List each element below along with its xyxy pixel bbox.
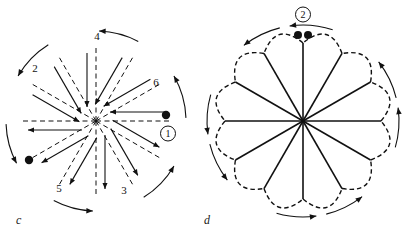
spoke-dashed-7 xyxy=(32,121,96,158)
panel-c-start-dot-right xyxy=(162,111,170,119)
petal-arc-4 xyxy=(235,53,264,82)
panel-c-number-label-4: 4 xyxy=(94,30,100,42)
panel-label-c: c xyxy=(16,213,21,228)
petal-arc-0 xyxy=(371,82,390,121)
petal-arc-5 xyxy=(216,82,235,121)
arc-arrow-head-1 xyxy=(18,69,24,76)
panel-c-circled-label-1: 1 xyxy=(166,128,171,139)
rim-arc-arrow-head-7 xyxy=(379,62,385,69)
spoke-solid-11 xyxy=(303,121,371,160)
panel-c-number-label-2: 2 xyxy=(32,62,38,74)
panel-c-diagram: 246351 xyxy=(6,29,186,214)
spoke-dashed-1 xyxy=(96,84,160,121)
spoke-dashed-4 xyxy=(59,57,96,121)
rim-arc-arrow-head-1 xyxy=(244,39,251,45)
rim-arc-arrow-head-4 xyxy=(310,214,317,219)
spoke-solid-5 xyxy=(235,82,303,121)
panel-label-d: d xyxy=(204,213,210,228)
spoke-solid-10 xyxy=(303,121,342,189)
rim-arc-arrow-head-0 xyxy=(290,22,297,27)
panel-d-pair-dot-left xyxy=(294,31,302,39)
panel-c-number-label-6: 6 xyxy=(153,76,159,88)
petal-arc-1 xyxy=(342,53,371,82)
spoke-solid-8 xyxy=(264,121,303,189)
panel-d-circled-label-2: 2 xyxy=(301,9,306,20)
petal-arc-10 xyxy=(342,160,371,189)
petal-arc-11 xyxy=(371,121,390,160)
spoke-arrow-shaft-1 xyxy=(104,79,151,106)
spoke-arrow-head-9 xyxy=(102,183,107,189)
spoke-arrow-head-0 xyxy=(110,109,116,114)
arc-arrow-head-0 xyxy=(99,29,106,34)
spoke-arrow-head-6 xyxy=(28,127,34,132)
spoke-solid-4 xyxy=(264,53,303,121)
rim-arc-arrow-head-5 xyxy=(355,197,362,203)
petal-arc-9 xyxy=(303,189,342,208)
spoke-arrow-head-3 xyxy=(84,101,89,107)
panel-c-number-label-3: 3 xyxy=(121,184,127,196)
rim-arc-arrow-head-2 xyxy=(204,128,209,135)
rim-arc-arrow-head-3 xyxy=(221,173,227,180)
spoke-dashed-8 xyxy=(59,121,96,185)
petal-arc-7 xyxy=(235,160,264,189)
panel-d-pair-dot-right xyxy=(304,31,312,39)
figure-svg: 246351 2 xyxy=(0,0,415,237)
spoke-dashed-10 xyxy=(96,121,133,185)
arc-arrow-head-3 xyxy=(86,208,93,213)
panel-d-diagram: 2 xyxy=(204,7,401,220)
spoke-solid-2 xyxy=(303,53,342,121)
spoke-dashed-11 xyxy=(96,121,160,158)
figure-canvas: 246351 2 xyxy=(0,0,415,237)
panel-c-end-dot-lower-left xyxy=(25,156,33,164)
spoke-arrow-shaft-4 xyxy=(54,67,81,114)
spoke-solid-7 xyxy=(235,121,303,160)
spoke-solid-1 xyxy=(303,82,371,121)
arc-arrow-head-4 xyxy=(168,166,174,173)
petal-arc-8 xyxy=(264,189,303,208)
spoke-arrow-shaft-10 xyxy=(111,129,138,176)
spoke-arrow-shaft-7 xyxy=(42,136,89,163)
panel-c-number-label-5: 5 xyxy=(56,182,62,194)
rim-arc-arrow-head-6 xyxy=(396,108,401,115)
petal-arc-6 xyxy=(216,121,235,160)
